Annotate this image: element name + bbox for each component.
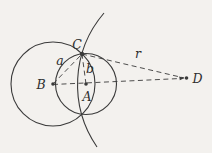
geometry-svg: CabrBAD [0, 0, 212, 153]
point-C [80, 52, 84, 56]
label-a: a [56, 53, 63, 68]
label-B: B [35, 77, 45, 92]
label-b: b [86, 61, 94, 76]
label-A: A [81, 89, 91, 104]
label-D: D [192, 71, 203, 86]
segment-C-to-D [82, 54, 184, 78]
point-D [185, 76, 189, 80]
label-C: C [72, 37, 82, 52]
point-A [84, 82, 88, 86]
large-arc-through-C [78, 13, 104, 147]
point-B [51, 82, 55, 86]
label-r: r [135, 46, 142, 61]
geometry-figure: CabrBAD [0, 0, 212, 153]
